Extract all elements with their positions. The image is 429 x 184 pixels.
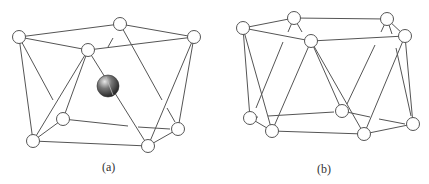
hidden-edge xyxy=(256,42,283,108)
edge xyxy=(148,37,194,146)
vertex-node xyxy=(82,44,95,57)
hidden-edge xyxy=(63,119,128,126)
vertex-node xyxy=(336,105,349,118)
edge xyxy=(33,50,88,141)
hidden-edge xyxy=(19,37,53,100)
hidden-edge xyxy=(347,45,375,104)
edge xyxy=(311,41,364,134)
edge xyxy=(405,36,413,124)
edge xyxy=(311,41,342,111)
edge xyxy=(19,37,88,50)
edge xyxy=(178,37,194,129)
edge xyxy=(88,37,194,50)
polyhedra-diagram xyxy=(0,0,429,184)
vertex-node xyxy=(381,13,394,26)
hidden-edge xyxy=(379,119,405,124)
vertex-node xyxy=(237,22,250,35)
vertex-node xyxy=(142,140,155,153)
panel-b-label: (b) xyxy=(317,162,331,177)
vertex-node xyxy=(57,113,70,126)
edge xyxy=(19,37,33,141)
vertex-node xyxy=(358,128,371,141)
edge xyxy=(243,18,294,28)
edge xyxy=(364,124,413,134)
vertex-node xyxy=(399,30,412,43)
vertex-node xyxy=(288,12,301,25)
edge xyxy=(272,131,364,134)
edge xyxy=(294,18,387,19)
edge xyxy=(120,24,194,37)
edge xyxy=(364,36,405,134)
vertex-node xyxy=(114,18,127,31)
vertex-node xyxy=(172,123,185,136)
edge xyxy=(88,50,148,146)
vertex-node xyxy=(13,31,26,44)
hidden-edge xyxy=(120,24,162,100)
vertex-node xyxy=(188,31,201,44)
vertex-node xyxy=(27,135,40,148)
vertex-node xyxy=(244,112,257,125)
panel-a-label: (a) xyxy=(102,160,115,175)
edge xyxy=(311,36,405,41)
vertex-node xyxy=(266,125,279,138)
hidden-edge xyxy=(138,127,170,129)
central-atom xyxy=(97,75,119,97)
panel-b-structure xyxy=(237,12,420,141)
vertex-node xyxy=(305,35,318,48)
edge xyxy=(33,141,148,146)
edge xyxy=(19,24,120,37)
hidden-edge xyxy=(167,108,175,122)
vertex-node xyxy=(407,118,420,131)
hidden-edge xyxy=(108,38,113,47)
panel-a-structure xyxy=(13,18,201,153)
hidden-edge xyxy=(268,112,334,116)
